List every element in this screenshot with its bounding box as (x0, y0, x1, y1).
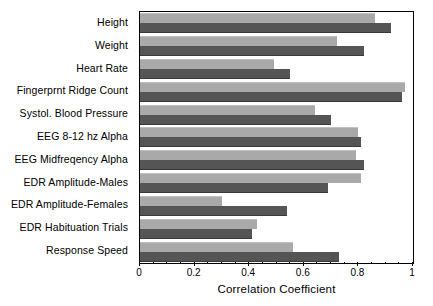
bar-series-dark (140, 252, 339, 262)
x-tick-label: 1 (409, 267, 415, 279)
x-axis-title: Correlation Coefficient (139, 283, 414, 295)
x-tick-minor (371, 262, 372, 264)
x-tick-minor (207, 262, 208, 264)
bar-series-dark (140, 183, 328, 193)
bar-series-dark (140, 69, 290, 79)
bar-series-light (140, 59, 274, 69)
bar-group (140, 217, 413, 240)
bar-series-light (140, 105, 315, 115)
bar-series-light (140, 173, 361, 183)
x-tick-label: 0.6 (296, 267, 310, 279)
category-label: Weight (0, 34, 133, 57)
x-tick-minor (385, 262, 386, 264)
x-tick-minor (289, 262, 290, 264)
x-tick-major (248, 262, 249, 266)
x-tick-major (303, 262, 304, 266)
x-tick-label: 0.2 (187, 267, 201, 279)
bar-series-light (140, 196, 222, 206)
bar-series-light (140, 242, 293, 252)
bar-series-dark (140, 229, 252, 239)
x-tick-minor (153, 262, 154, 264)
x-tick-minor (166, 262, 167, 264)
x-tick-major (194, 262, 195, 266)
x-tick-minor (316, 262, 317, 264)
bars-layer (140, 12, 413, 263)
bar-series-light (140, 150, 356, 160)
x-tick-minor (221, 262, 222, 264)
plot-area (139, 11, 414, 264)
bar-series-dark (140, 46, 364, 56)
x-tick-major (357, 262, 358, 266)
correlation-coefficient-bar-chart: HeightWeightHeart RateFingerprnt Ridge C… (0, 0, 433, 306)
x-tick-label: 0 (136, 267, 142, 279)
bar-group (140, 103, 413, 126)
x-tick-minor (344, 262, 345, 264)
category-label: Fingerprnt Ridge Count (0, 79, 133, 102)
x-tick-minor (180, 262, 181, 264)
bar-group (140, 126, 413, 149)
x-tick-major (412, 262, 413, 266)
category-label: Height (0, 11, 133, 34)
bar-group (140, 149, 413, 172)
category-axis-labels: HeightWeightHeart RateFingerprnt Ridge C… (0, 11, 133, 262)
bar-series-light (140, 219, 257, 229)
bar-group (140, 58, 413, 81)
category-label: EEG 8-12 hz Alpha (0, 125, 133, 148)
category-label: EDR Habituation Trials (0, 216, 133, 239)
bar-series-dark (140, 206, 287, 216)
bar-series-dark (140, 137, 361, 147)
bar-series-dark (140, 92, 402, 102)
category-label: Systol. Blood Pressure (0, 102, 133, 125)
category-label: EDR Amplitude-Males (0, 171, 133, 194)
bar-series-light (140, 13, 375, 23)
bar-group (140, 12, 413, 35)
bar-group (140, 80, 413, 103)
x-axis-tick-labels: 00.20.40.60.81 (139, 267, 414, 281)
bar-group (140, 35, 413, 58)
category-label: Heart Rate (0, 57, 133, 80)
x-tick-major (139, 262, 140, 266)
bar-group (140, 172, 413, 195)
bar-series-dark (140, 160, 364, 170)
bar-series-light (140, 82, 405, 92)
x-tick-minor (262, 262, 263, 264)
x-tick-minor (276, 262, 277, 264)
category-label: EEG Midfreqency Alpha (0, 148, 133, 171)
x-tick-minor (398, 262, 399, 264)
bar-series-light (140, 36, 337, 46)
category-label: EDR Amplitude-Females (0, 194, 133, 217)
bar-series-light (140, 127, 358, 137)
bar-group (140, 195, 413, 218)
x-tick-label: 0.4 (241, 267, 255, 279)
bar-series-dark (140, 115, 331, 125)
category-label: Response Speed (0, 239, 133, 262)
x-tick-minor (235, 262, 236, 264)
x-tick-label: 0.8 (350, 267, 364, 279)
x-tick-minor (330, 262, 331, 264)
bar-group (140, 240, 413, 263)
bar-series-dark (140, 23, 391, 33)
